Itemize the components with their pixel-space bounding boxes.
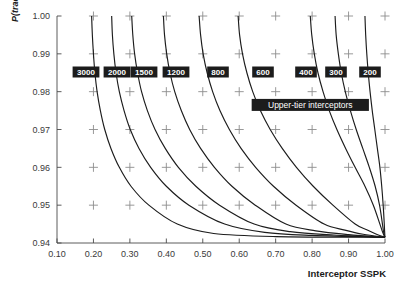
contour-label-1500: 1500 (131, 67, 158, 78)
x-tick-label: 0.60 (230, 249, 248, 259)
x-tick-label: 1.00 (376, 249, 394, 259)
x-tick-label: 0.10 (48, 249, 66, 259)
contour-label-1200: 1200 (163, 67, 190, 78)
y-tick-label: 0.96 (32, 163, 50, 173)
y-tick-label: 1.00 (32, 11, 50, 21)
contour-label-text: 200 (363, 68, 377, 77)
y-tick-label: 0.98 (32, 87, 50, 97)
contour-label-200: 200 (359, 67, 381, 78)
contour-chart-figure: 0.100.200.300.400.500.600.700.800.901.00… (0, 0, 404, 285)
y-tick-label: 0.99 (32, 49, 50, 59)
contour-label-text: 600 (256, 68, 270, 77)
y-tick-label: 0.94 (32, 238, 50, 248)
y-axis-title: P(track) (10, 0, 20, 22)
x-axis-title: Interceptor SSPK (308, 268, 386, 279)
x-tick-label: 0.50 (194, 249, 212, 259)
chart-annotations: Upper-tier interceptors (252, 99, 369, 111)
annotation-upper-tier-interceptors: Upper-tier interceptors (252, 99, 369, 111)
x-tick-label: 0.30 (121, 249, 139, 259)
contour-label-boxes: 3000200015001200800600400300200 (73, 67, 381, 78)
contour-label-text: 1200 (167, 68, 185, 77)
x-tick-label: 0.90 (340, 249, 358, 259)
contour-label-text: 300 (329, 68, 343, 77)
contour-label-text: 2000 (108, 68, 126, 77)
x-tick-label: 0.80 (303, 249, 321, 259)
contour-label-800: 800 (207, 67, 229, 78)
contour-label-3000: 3000 (73, 67, 100, 78)
contour-label-text: 1500 (135, 68, 153, 77)
y-tick-label: 0.97 (32, 125, 50, 135)
contour-label-400: 400 (295, 67, 317, 78)
annotation-text: Upper-tier interceptors (268, 100, 353, 110)
contour-label-300: 300 (325, 67, 347, 78)
x-tick-label: 0.70 (267, 249, 285, 259)
contour-label-text: 3000 (77, 68, 95, 77)
contour-label-2000: 2000 (104, 67, 131, 78)
contour-label-text: 800 (211, 68, 225, 77)
x-tick-label: 0.20 (85, 249, 103, 259)
y-tick-label: 0.95 (32, 200, 50, 210)
contour-label-600: 600 (252, 67, 274, 78)
x-tick-label: 0.40 (158, 249, 176, 259)
contour-label-text: 400 (299, 68, 313, 77)
